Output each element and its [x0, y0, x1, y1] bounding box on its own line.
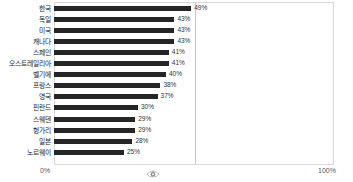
bar: [54, 39, 174, 44]
bar: [54, 17, 174, 22]
category-label: 독일: [0, 14, 51, 25]
category-label: 미국: [0, 25, 51, 36]
category-axis-labels: 한국독일미국캐나다스페인오스트레일리아벨기에프랑스영국핀란드스웨덴헝가리일본노르…: [0, 2, 51, 165]
category-label: 영국: [0, 91, 51, 102]
bar-value-label: 40%: [169, 68, 182, 79]
category-label: 캐나다: [0, 36, 51, 47]
category-label: 오스트레일리아: [0, 58, 51, 69]
bar-row: 28%: [54, 136, 334, 147]
bar-value-label: 29%: [138, 113, 151, 124]
bar: [54, 83, 160, 88]
bar-value-label: 41%: [172, 57, 185, 68]
bar-value-label: 41%: [172, 46, 185, 57]
bar: [54, 28, 174, 33]
category-label: 일본: [0, 136, 51, 147]
eye-marker-icon: [146, 166, 160, 178]
bar-row: 43%: [54, 14, 334, 25]
value-axis: 0% 100%: [0, 167, 353, 181]
bar-value-label: 38%: [163, 79, 176, 90]
bar-value-label: 30%: [141, 101, 154, 112]
bar: [54, 61, 169, 66]
bar-value-label: 29%: [138, 124, 151, 135]
axis-tick-max: 100%: [318, 167, 336, 174]
bar: [54, 117, 135, 122]
bar: [54, 105, 138, 110]
category-label: 한국: [0, 3, 51, 14]
bar: [54, 94, 158, 99]
category-label: 스웨덴: [0, 114, 51, 125]
bar-row: 49%: [54, 3, 334, 14]
category-label: 핀란드: [0, 102, 51, 113]
bar-row: 25%: [54, 147, 334, 158]
bar-row: 43%: [54, 25, 334, 36]
bar: [54, 72, 166, 77]
bar-row: 30%: [54, 102, 334, 113]
bar: [54, 50, 169, 55]
axis-tick-min: 0%: [40, 167, 50, 174]
bar-row: 29%: [54, 114, 334, 125]
bar-value-label: 37%: [161, 90, 174, 101]
bar-row: 43%: [54, 36, 334, 47]
bar-value-label: 43%: [177, 24, 190, 35]
bar-value-label: 43%: [177, 13, 190, 24]
bar-chart: 한국독일미국캐나다스페인오스트레일리아벨기에프랑스영국핀란드스웨덴헝가리일본노르…: [0, 0, 353, 182]
bar-row: 41%: [54, 47, 334, 58]
bar-row: 29%: [54, 125, 334, 136]
bar: [54, 139, 132, 144]
bar-row: 41%: [54, 58, 334, 69]
bar-value-label: 49%: [194, 2, 207, 13]
bar-value-label: 25%: [127, 146, 140, 157]
bar-value-label: 43%: [177, 35, 190, 46]
bar-row: 40%: [54, 69, 334, 80]
bar-value-label: 28%: [135, 135, 148, 146]
category-label: 노르웨이: [0, 147, 51, 158]
bar: [54, 6, 191, 11]
category-label: 벨기에: [0, 69, 51, 80]
category-label: 헝가리: [0, 125, 51, 136]
category-label: 프랑스: [0, 80, 51, 91]
bar-row: 37%: [54, 91, 334, 102]
bar: [54, 128, 135, 133]
bar: [54, 150, 124, 155]
bars-layer: 49%43%43%43%41%41%40%38%37%30%29%29%28%2…: [54, 2, 334, 165]
category-label: 스페인: [0, 47, 51, 58]
bar-row: 38%: [54, 80, 334, 91]
